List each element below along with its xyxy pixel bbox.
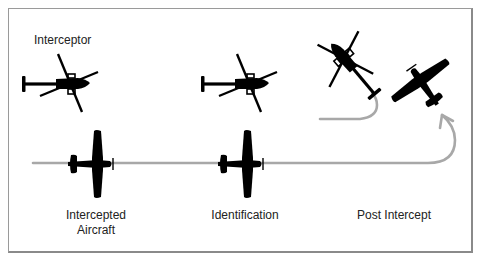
- post-intercept-airplane-icon: [384, 48, 466, 124]
- interceptor-helicopter-icon: [22, 54, 98, 112]
- post-intercept-label: Post Intercept: [346, 208, 442, 223]
- interceptor-label: Interceptor: [34, 33, 91, 48]
- intercepted-label-line1: Intercepted: [56, 208, 136, 223]
- identification-airplane-icon: [218, 130, 263, 198]
- intercepted-aircraft-label: Intercepted Aircraft: [56, 208, 136, 238]
- intercepted-label-line2: Aircraft: [56, 223, 136, 238]
- identification-helicopter-icon: [201, 54, 277, 112]
- identification-label: Identification: [205, 208, 285, 223]
- post-intercept-helicopter-icon: [304, 19, 397, 115]
- intercepted-airplane-icon: [68, 130, 113, 198]
